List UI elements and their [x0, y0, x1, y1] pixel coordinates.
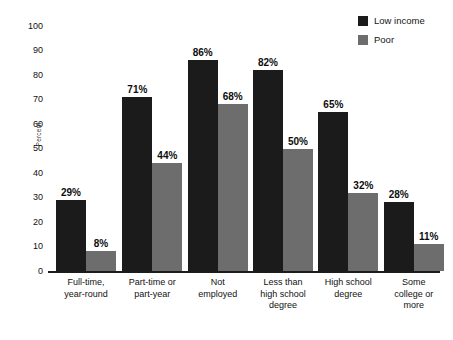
bar-poor[interactable]: 44%	[152, 163, 182, 271]
category-label-line: employed	[181, 289, 255, 301]
category-label-line: High school	[311, 277, 385, 289]
bar-value-label: 50%	[288, 137, 308, 147]
y-axis-tick-100: 100	[0, 22, 43, 31]
bar-group: 28%11%	[384, 26, 444, 271]
bar-low-income[interactable]: 29%	[56, 200, 86, 271]
bar-value-label: 11%	[419, 232, 438, 242]
y-axis-ticks: 1009080706050403020100	[0, 0, 43, 340]
bar-value-label: 44%	[157, 151, 177, 161]
bar-value-label: 29%	[61, 188, 81, 198]
bar-poor[interactable]: 50%	[283, 149, 313, 272]
category-label-line: Full-time,	[49, 277, 123, 289]
y-axis-tick-90: 90	[0, 46, 43, 55]
category-label: High schooldegree	[311, 277, 385, 300]
bar-poor[interactable]: 11%	[414, 244, 444, 271]
bar-low-income[interactable]: 71%	[122, 97, 152, 271]
legend-swatch-low-income	[358, 16, 368, 26]
bar-group: 71%44%	[122, 26, 182, 271]
y-axis-tick-30: 30	[0, 193, 43, 202]
category-label-line: Not	[181, 277, 255, 289]
category-label-line: high school	[246, 289, 320, 301]
bar-value-label: 86%	[193, 48, 213, 58]
bar-low-income[interactable]: 86%	[188, 60, 218, 271]
bar-value-label: 65%	[323, 100, 343, 110]
bar-low-income[interactable]: 28%	[384, 202, 414, 271]
bar-value-label: 82%	[258, 58, 278, 68]
y-axis-tick-70: 70	[0, 95, 43, 104]
y-axis-tick-80: 80	[0, 71, 43, 80]
bar-poor[interactable]: 32%	[348, 193, 378, 271]
bar-group: 82%50%	[253, 26, 313, 271]
bar-group: 65%32%	[318, 26, 378, 271]
category-label: Full-time,year-round	[49, 277, 123, 300]
bar-chart: Low income Poor Percent 1009080706050403…	[0, 0, 453, 340]
bar-value-label: 8%	[94, 239, 108, 249]
category-label-line: year-round	[49, 289, 123, 301]
category-label-line: degree	[311, 289, 385, 301]
y-axis-tick-50: 50	[0, 144, 43, 153]
category-label-line: Less than	[246, 277, 320, 289]
category-label: Less thanhigh schooldegree	[246, 277, 320, 312]
category-label-line: more	[377, 300, 451, 312]
bar-poor[interactable]: 8%	[86, 251, 116, 271]
category-label: Somecollege ormore	[377, 277, 451, 312]
category-label-line: Part-time or	[115, 277, 189, 289]
category-label-line: degree	[246, 300, 320, 312]
bar-low-income[interactable]: 82%	[253, 70, 283, 271]
y-axis-tick-40: 40	[0, 169, 43, 178]
x-axis-category-labels: Full-time,year-roundPart-time orpart-yea…	[48, 277, 440, 337]
legend-label-low-income: Low income	[374, 16, 425, 26]
bar-value-label: 32%	[353, 181, 373, 191]
y-axis-tick-10: 10	[0, 242, 43, 251]
category-label-line: Some	[377, 277, 451, 289]
plot-area: 29%8%71%44%86%68%82%50%65%32%28%11%	[48, 26, 440, 271]
y-axis-tick-20: 20	[0, 218, 43, 227]
bar-group: 86%68%	[188, 26, 248, 271]
x-axis-baseline	[48, 271, 440, 273]
category-label-line: college or	[377, 289, 451, 301]
bar-poor[interactable]: 68%	[218, 104, 248, 271]
bar-low-income[interactable]: 65%	[318, 112, 348, 271]
category-label: Part-time orpart-year	[115, 277, 189, 300]
bar-group: 29%8%	[56, 26, 116, 271]
y-axis-tick-0: 0	[0, 267, 43, 276]
bar-value-label: 71%	[127, 85, 147, 95]
y-axis-tick-60: 60	[0, 120, 43, 129]
category-label-line: part-year	[115, 289, 189, 301]
category-label: Notemployed	[181, 277, 255, 300]
bar-value-label: 28%	[389, 190, 409, 200]
legend-item-low-income[interactable]: Low income	[358, 16, 425, 26]
bar-value-label: 68%	[223, 92, 243, 102]
